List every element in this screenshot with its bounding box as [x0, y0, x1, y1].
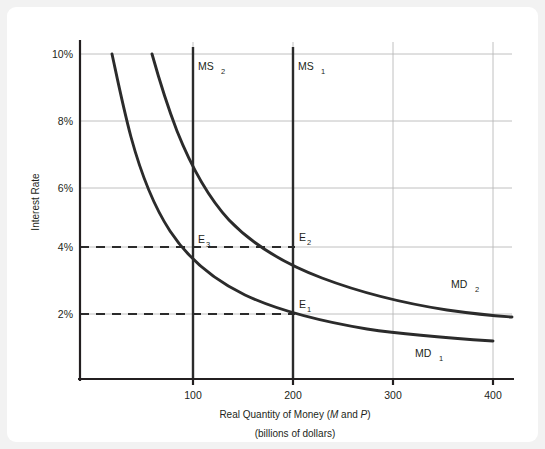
xtick-label-200: 200 [284, 389, 302, 401]
xtick-label-300: 300 [384, 389, 402, 401]
xtick-label-400: 400 [484, 389, 502, 401]
x-axis-title-part1: Real Quantity of Money ( [219, 409, 330, 420]
money-market-chart: 10% 8% 6% 4% 2% 100 200 300 400 MS 2 MS … [7, 7, 538, 442]
label-ms2-text: MS [198, 60, 214, 72]
label-md2-text: MD [451, 278, 468, 290]
label-ms2-subscript: 2 [221, 67, 225, 76]
xtick-label-100: 100 [184, 389, 202, 401]
vertical-gridlines [193, 42, 493, 379]
y-axis-title: Interest Rate [30, 173, 41, 231]
label-e3-text: E [198, 233, 205, 245]
label-ms1-text: MS [298, 60, 314, 72]
label-md1-text: MD [415, 347, 432, 359]
figure-card: 10% 8% 6% 4% 2% 100 200 300 400 MS 2 MS … [7, 7, 538, 442]
chart-svg: 10% 8% 6% 4% 2% 100 200 300 400 MS 2 MS … [7, 7, 538, 442]
label-e1: E 1 [299, 298, 311, 314]
label-e3-subscript: 3 [206, 240, 210, 249]
label-e2: E 2 [299, 231, 311, 247]
ytick-label-10pct: 10% [52, 48, 73, 60]
label-e2-text: E [299, 231, 306, 243]
ytick-label-8pct: 8% [58, 115, 73, 127]
x-axis-title-part2: and [338, 409, 360, 420]
ytick-label-2pct: 2% [58, 308, 73, 320]
x-axis-title: Real Quantity of Money (M and P) [219, 409, 370, 420]
label-md1: MD 1 [415, 347, 443, 363]
label-md2-subscript: 2 [475, 285, 479, 294]
label-md2: MD 2 [451, 278, 479, 294]
label-ms1: MS 1 [298, 60, 325, 76]
label-e2-subscript: 2 [307, 238, 311, 247]
horizontal-gridlines [80, 54, 512, 314]
ytick-label-6pct: 6% [58, 182, 73, 194]
ytick-label-4pct: 4% [58, 241, 73, 253]
label-ms2: MS 2 [198, 60, 225, 76]
label-e1-text: E [299, 298, 306, 310]
label-ms1-subscript: 1 [321, 67, 325, 76]
label-md1-subscript: 1 [439, 354, 443, 363]
x-axis-title-part3: ) [367, 409, 370, 420]
label-e1-subscript: 1 [307, 305, 311, 314]
x-axis-subtitle: (billions of dollars) [255, 428, 336, 439]
